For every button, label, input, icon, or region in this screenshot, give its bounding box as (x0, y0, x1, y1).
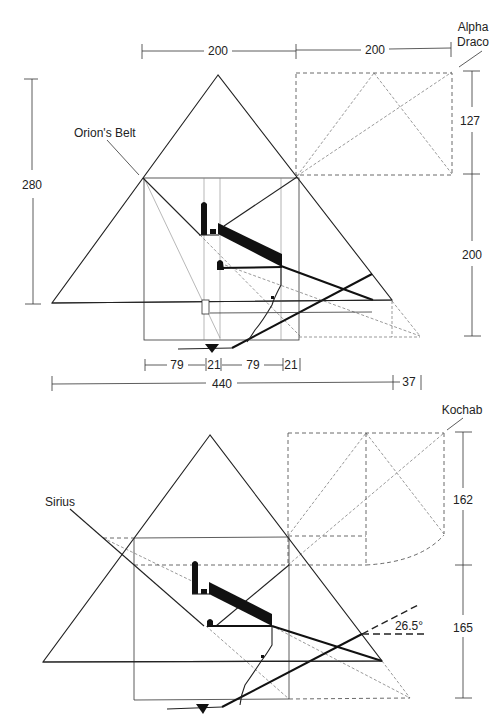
antechamber (210, 229, 216, 234)
dim-label-21-b: 21 (284, 358, 298, 372)
base-line-bottom (43, 661, 382, 662)
dim-label-165: 165 (453, 621, 473, 635)
inner-construction-rect-bottom (103, 537, 410, 700)
orion-shaft-upper (143, 178, 200, 235)
pyramid-diagram-canvas: 200 200 Alpha Draco 280 127 (0, 0, 503, 726)
label-sirius: Sirius (45, 495, 75, 509)
descending-passage-bottom (222, 634, 362, 707)
kochab-construction-box (288, 433, 444, 565)
dim-label-280: 280 (22, 178, 42, 192)
dim-label-440: 440 (212, 377, 232, 391)
grand-gallery (218, 223, 282, 267)
dim-label-162: 162 (453, 493, 473, 507)
relieving-chambers-bottom (192, 561, 198, 594)
base-width-dims: 440 37 (52, 375, 421, 391)
top-dimension-200-right: 200 (296, 42, 451, 57)
label-kochab: Kochab (442, 403, 483, 417)
chambers-top (199, 202, 282, 342)
queens-passage (217, 267, 282, 268)
dim-label-79-b: 79 (246, 358, 260, 372)
top-diagram: 200 200 Alpha Draco 280 127 (22, 20, 489, 391)
well-shaft-bottom (240, 626, 272, 705)
label-alpha: Alpha (458, 20, 489, 34)
right-dimension-162: 162 (453, 432, 473, 565)
angle-label: 26.5° (395, 619, 423, 633)
base-line-top (52, 300, 392, 303)
dim-label-127: 127 (460, 114, 480, 128)
dim-label-200-vertical: 200 (462, 248, 482, 262)
subterranean-passage-bottom (167, 707, 222, 709)
subterranean-level (210, 312, 372, 313)
alpha-draco-pointer (459, 51, 482, 67)
gallery-extension-bottom (272, 626, 382, 661)
dim-label-37: 37 (402, 375, 416, 389)
pyramid-outline-bottom (43, 435, 382, 662)
kochab-pointer (447, 418, 463, 430)
dim-label-21-a: 21 (207, 358, 221, 372)
top-dimension-200-left: 200 (142, 44, 296, 59)
dim-label-79-a: 79 (170, 358, 184, 372)
right-dimension-165: 165 (453, 565, 473, 698)
label-orions-belt: Orion's Belt (74, 126, 136, 140)
grand-gallery-extension (281, 266, 373, 300)
alpha-draco-construction-box (296, 72, 452, 176)
right-dimension-200: 200 (462, 174, 482, 336)
entrance-marker (202, 300, 209, 314)
bottom-diagram: Kochab 162 165 Siri (43, 403, 483, 714)
sirius-shaft (70, 509, 204, 626)
dim-label-200-right: 200 (365, 43, 385, 57)
draco-shaft-line (224, 177, 297, 226)
left-dimension-280: 280 (22, 79, 42, 304)
label-draco: Draco (457, 35, 489, 49)
dim-label-200-left: 200 (208, 44, 228, 58)
relieving-chambers (201, 202, 207, 235)
chambers-bottom (192, 561, 272, 705)
subterranean-passage (178, 348, 232, 349)
bottom-segment-dims: 79 21 79 21 (145, 358, 300, 372)
grand-gallery-bottom (209, 582, 272, 626)
orions-belt-pointer (107, 140, 139, 175)
right-dimension-127: 127 (460, 71, 480, 174)
subterranean-chamber-bottom (196, 704, 209, 714)
